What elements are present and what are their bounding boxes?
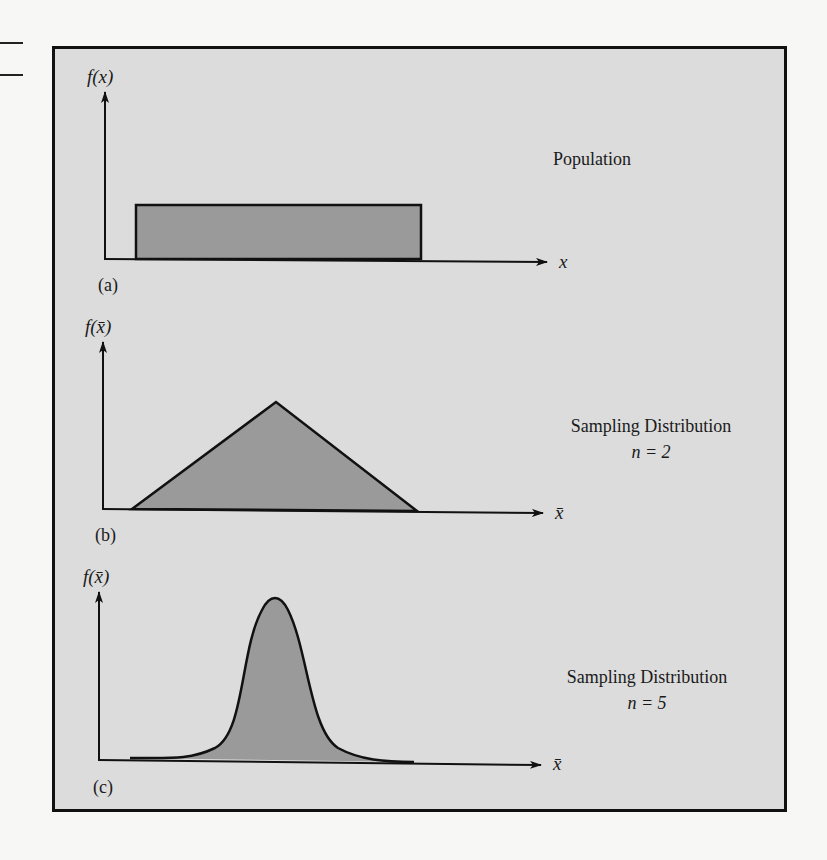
bell-density-area bbox=[130, 598, 414, 762]
panel-label: (c) bbox=[93, 777, 113, 798]
panel-title: Sampling Distribution bbox=[571, 416, 732, 436]
panel-label: (b) bbox=[95, 525, 116, 546]
y-axis-label: f(x̄) bbox=[83, 566, 109, 588]
panel-b: f(x̄) x̄ (b) Sampling Distribution n = 2 bbox=[85, 316, 731, 546]
uniform-density-area bbox=[136, 205, 421, 259]
panel-subtitle: n = 5 bbox=[627, 693, 666, 713]
panel-a: f(x) x (a) Population bbox=[87, 66, 631, 296]
y-axis-label: f(x) bbox=[87, 66, 113, 88]
sampling-distribution-figure: f(x) x (a) Population f(x̄) x̄ (b) Sampl… bbox=[0, 0, 827, 860]
panel-c: f(x̄) x̄ (c) Sampling Distribution n = 5 bbox=[83, 566, 727, 798]
panel-title: Population bbox=[553, 149, 631, 169]
triangular-density-area bbox=[132, 402, 417, 511]
x-axis-arrow-icon bbox=[98, 760, 541, 765]
x-axis-label: x bbox=[558, 251, 568, 272]
x-axis-label: x̄ bbox=[554, 502, 564, 523]
panel-subtitle: n = 2 bbox=[631, 442, 670, 462]
y-axis-label: f(x̄) bbox=[85, 316, 111, 338]
panel-title: Sampling Distribution bbox=[567, 667, 728, 687]
x-axis-label: x̄ bbox=[552, 753, 562, 774]
panel-label: (a) bbox=[98, 275, 118, 296]
